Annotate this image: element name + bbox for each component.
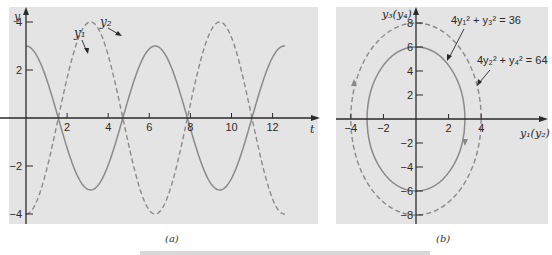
t-tick-label: 2 [64, 121, 70, 133]
b-y-tick-label: 2 [407, 89, 413, 101]
b-y-tick-label: −4 [400, 161, 413, 173]
panel-b: −4−2248642−2−4−6−8 y₃(y₄) y₁(y₂) 4y₁² + … [336, 7, 550, 244]
caption-a: (a) [165, 233, 179, 244]
b-y-tick-label: −8 [400, 209, 413, 221]
t-axis-label: t [310, 123, 315, 136]
truncated-caption [140, 251, 430, 255]
caption-b: (b) [436, 233, 450, 244]
t-tick-label: 4 [105, 121, 111, 133]
label-y2: y₂ [99, 15, 112, 29]
figure: 2468101242−2−4 y t y₁ y₂ (a) −4−2248642−… [0, 0, 552, 255]
panel-a-background [9, 7, 318, 224]
t-tick-label: 8 [187, 121, 193, 133]
b-x-axis-label: y₁(y₂) [519, 127, 550, 140]
label-y1: y₁ [73, 26, 86, 40]
b-x-tick-label: 4 [478, 122, 484, 134]
b-x-tick-label: −2 [377, 122, 390, 134]
eq-outer: 4y₂² + y₄² = 64 [477, 54, 548, 66]
eq-inner: 4y₁² + y₃² = 36 [451, 14, 521, 26]
b-y-axis-label: y₃(y₄) [381, 8, 412, 21]
y-axis-label: y [13, 10, 21, 23]
y-tick-label: −2 [9, 160, 22, 172]
b-y-tick-label: 6 [407, 41, 413, 53]
t-tick-label: 10 [225, 121, 237, 133]
b-y-tick-label: −6 [400, 185, 413, 197]
b-y-tick-label: −2 [400, 137, 413, 149]
panel-a: 2468101242−2−4 y t y₁ y₂ (a) [0, 7, 320, 244]
b-x-tick-label: 2 [446, 122, 452, 134]
y-tick-label: 2 [16, 64, 22, 76]
t-tick-label: 12 [266, 121, 278, 133]
b-x-tick-label: −4 [345, 122, 358, 134]
y-tick-label: −4 [9, 208, 22, 220]
t-tick-label: 6 [146, 121, 152, 133]
b-y-tick-label: 4 [407, 65, 413, 77]
